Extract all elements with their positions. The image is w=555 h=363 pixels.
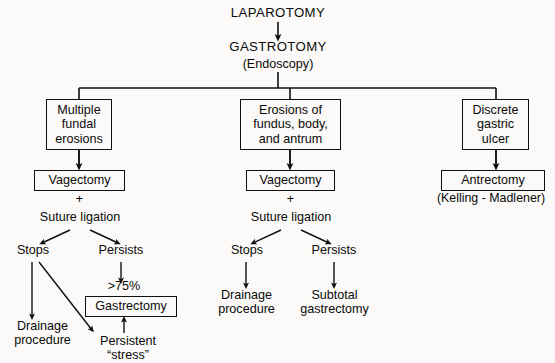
- node-laparotomy: LAPAROTOMY: [198, 6, 358, 21]
- box-vagectomy-left: Vagectomy: [34, 170, 125, 191]
- node-gastrotomy-note: (Endoscopy): [198, 57, 358, 71]
- flowchart-canvas: LAPAROTOMY GASTROTOMY (Endoscopy) Multip…: [0, 0, 555, 363]
- label-suture-ligation-center: Suture ligation: [231, 210, 351, 224]
- label-persists-center: Persists: [302, 243, 366, 257]
- box-gastrectomy: Gastrectomy: [85, 296, 177, 317]
- label-drainage-procedure-center: Drainage procedure: [204, 288, 289, 316]
- box-vagectomy-center: Vagectomy: [246, 170, 335, 191]
- label-kelling-madlener: (Kelling - Madlener): [427, 192, 555, 206]
- label-stops-center: Stops: [222, 243, 272, 257]
- plus-sign-center: +: [246, 192, 335, 206]
- label-subtotal-gastrectomy: Subtotal gastrectomy: [286, 288, 383, 316]
- label-drainage-procedure-left: Drainage procedure: [0, 319, 85, 347]
- label-persists-left: Persists: [89, 243, 153, 257]
- label-gastrectomy-threshold: >75%: [92, 279, 156, 293]
- box-antrectomy: Antrectomy: [441, 170, 545, 191]
- box-multiple-fundal-erosions: Multiple fundal erosions: [46, 99, 112, 150]
- label-suture-ligation-left: Suture ligation: [20, 210, 140, 224]
- box-erosions-fundus-body-antrum: Erosions of fundus, body, and antrum: [240, 99, 341, 150]
- node-gastrotomy: GASTROTOMY: [198, 40, 358, 55]
- plus-sign-left: +: [34, 192, 125, 206]
- label-persistent-stress: Persistent “stress”: [83, 334, 173, 362]
- box-discrete-gastric-ulcer: Discrete gastric ulcer: [462, 99, 529, 150]
- label-stops-left: Stops: [8, 243, 58, 257]
